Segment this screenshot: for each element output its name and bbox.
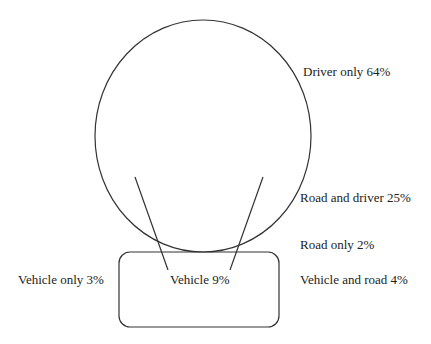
label-road-only: Road only 2%	[300, 237, 374, 252]
road-boundary-left	[135, 177, 168, 270]
driver-circle	[95, 20, 311, 252]
label-vehicle-and-road: Vehicle and road 4%	[300, 272, 408, 287]
label-vehicle-only: Vehicle only 3%	[18, 272, 104, 287]
venn-diagram	[0, 0, 431, 344]
label-driver-only: Driver only 64%	[303, 64, 390, 79]
label-road-and-driver: Road and driver 25%	[300, 190, 411, 205]
label-vehicle: Vehicle 9%	[170, 272, 230, 287]
road-boundary-right	[230, 177, 263, 270]
vehicle-box	[119, 252, 279, 327]
